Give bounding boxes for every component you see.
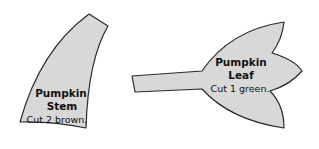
leaf-instruction: Cut 1 green.	[211, 83, 270, 94]
leaf-title-line1: Pumpkin	[215, 56, 267, 68]
pumpkin-stem-piece: Pumpkin Stem Cut 2 brown.	[20, 14, 108, 128]
pumpkin-leaf-piece: Pumpkin Leaf Cut 1 green.	[132, 22, 302, 128]
leaf-outline	[132, 22, 302, 128]
leaf-title-line2: Leaf	[228, 69, 254, 81]
stem-title-line1: Pumpkin	[35, 87, 87, 99]
pattern-sheet: Pumpkin Stem Cut 2 brown. Pumpkin Leaf C…	[0, 0, 319, 149]
stem-title-line2: Stem	[47, 100, 78, 112]
stem-instruction: Cut 2 brown.	[27, 114, 88, 125]
